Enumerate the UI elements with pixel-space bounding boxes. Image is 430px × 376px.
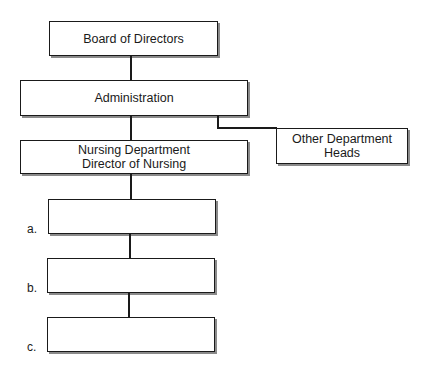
marker-c: c. <box>27 340 36 354</box>
blank-box-c <box>47 317 215 352</box>
board-of-directors-box: Board of Directors <box>49 21 218 56</box>
connector-a-b <box>129 234 131 258</box>
connector-board-admin <box>130 56 132 80</box>
blank-box-b <box>47 258 215 293</box>
connector-b-c <box>128 293 130 317</box>
other-department-heads-box: Other Department Heads <box>276 128 408 164</box>
nursing-line2: Director of Nursing <box>82 157 186 171</box>
nursing-line1: Nursing Department <box>78 143 190 157</box>
nursing-department-box: Nursing Department Director of Nursing <box>20 140 248 174</box>
connector-nursing-a <box>130 174 132 199</box>
administration-label: Administration <box>94 91 173 105</box>
administration-box: Administration <box>20 80 248 116</box>
marker-b: b. <box>27 281 37 295</box>
other-line2: Heads <box>324 146 360 160</box>
connector-admin-other-horizontal <box>217 127 277 129</box>
connector-admin-nursing <box>130 116 132 140</box>
blank-box-a <box>48 199 216 234</box>
marker-a: a. <box>27 222 37 236</box>
other-line1: Other Department <box>292 132 392 146</box>
board-label: Board of Directors <box>83 32 184 46</box>
